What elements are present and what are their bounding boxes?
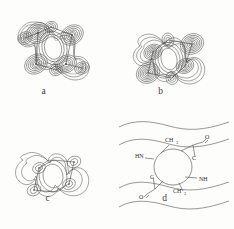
figure-container: a <box>0 0 234 229</box>
panel-b-contour-map <box>117 0 234 114</box>
panel-d: CH 3 O HN C NH C O CH 3 d <box>117 115 234 229</box>
panel-a-label: a <box>0 86 117 96</box>
atom-label-ch3-top-sub: 3 <box>176 140 178 145</box>
atom-label-c-left: C <box>150 174 154 180</box>
panel-b-label: b <box>117 86 234 96</box>
panel-d-label: d <box>117 193 234 203</box>
contour-outer-envelope-c <box>16 152 89 196</box>
panel-b: b <box>117 0 234 114</box>
atom-label-c-right: C <box>192 155 196 161</box>
atom-label-o-top: O <box>205 134 210 140</box>
molecule-ring <box>154 149 192 185</box>
panel-c-contour-map <box>0 115 117 229</box>
atom-label-hn-left: HN <box>135 153 144 159</box>
molecule-atom-labels: CH 3 O HN C NH C O CH 3 <box>135 134 210 200</box>
panel-d-structure-diagram: CH 3 O HN C NH C O CH 3 <box>117 115 234 229</box>
panel-c-label: c <box>0 193 117 203</box>
panel-a: a <box>0 0 117 114</box>
atom-label-ch3-top: CH <box>165 137 174 143</box>
contour-central-ring-b <box>152 39 186 78</box>
panel-a-contour-map <box>0 0 117 114</box>
panel-c: c <box>0 115 117 229</box>
atom-label-nh-right: NH <box>199 176 208 182</box>
